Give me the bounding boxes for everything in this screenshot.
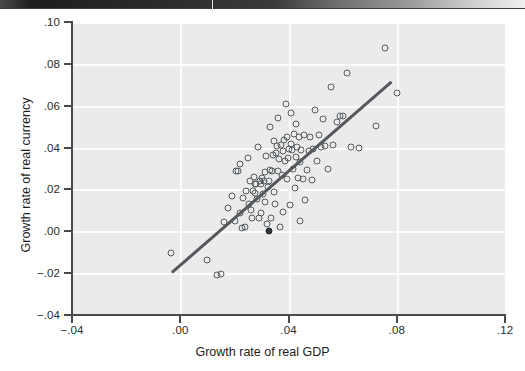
data-point	[393, 89, 400, 96]
data-point	[287, 109, 294, 116]
y-axis-tick	[64, 230, 71, 232]
data-point	[324, 165, 331, 172]
data-point	[254, 196, 261, 203]
data-point	[299, 176, 306, 183]
data-point	[330, 142, 337, 149]
data-point	[315, 131, 322, 138]
scatter-plot-figure: −.04−.02.00.02.04.06.08.10 Growth rate o…	[0, 0, 525, 371]
data-point	[260, 190, 267, 197]
data-point	[286, 202, 293, 209]
x-axis-tick	[179, 316, 181, 323]
y-axis-tick	[64, 63, 71, 65]
data-point	[291, 185, 298, 192]
x-axis-tick	[71, 316, 73, 323]
data-point	[279, 208, 286, 215]
data-point	[267, 123, 274, 130]
y-axis-tick-label: .10	[14, 16, 60, 28]
data-point	[293, 120, 300, 127]
data-point	[322, 142, 329, 149]
gridline-vertical	[180, 22, 182, 315]
data-point	[265, 177, 272, 184]
data-point	[340, 112, 347, 119]
data-point	[221, 218, 228, 225]
x-axis-title: Growth rate of real GDP	[0, 345, 525, 359]
data-point	[272, 200, 279, 207]
data-point	[296, 218, 303, 225]
y-axis-tick	[64, 147, 71, 149]
data-point	[255, 143, 262, 150]
y-axis-tick-label: −.04	[14, 309, 60, 321]
data-point	[237, 210, 244, 217]
data-point	[285, 154, 292, 161]
data-point	[275, 115, 282, 122]
data-point	[310, 145, 317, 152]
data-point	[224, 205, 231, 212]
data-point-highlighted	[266, 227, 273, 234]
y-axis-tick-labels: −.04−.02.00.02.04.06.08.10	[8, 0, 60, 371]
figure-root: −.04−.02.00.02.04.06.08.10 Growth rate o…	[0, 0, 525, 371]
y-axis-line	[71, 21, 73, 316]
data-point	[277, 224, 284, 231]
gridline-vertical	[505, 22, 507, 315]
data-point	[312, 107, 319, 114]
data-point	[270, 189, 277, 196]
data-point	[283, 175, 290, 182]
data-point	[167, 250, 174, 257]
data-point	[231, 218, 238, 225]
data-point	[261, 198, 268, 205]
data-point	[382, 45, 389, 52]
data-point	[348, 143, 355, 150]
y-axis-title: Growth rate of real currency	[19, 45, 33, 305]
x-axis-tick	[504, 316, 506, 323]
x-axis-tick-label: −.04	[42, 324, 102, 336]
y-axis-tick	[64, 188, 71, 190]
y-axis-tick	[64, 272, 71, 274]
data-point	[236, 161, 243, 168]
x-axis-tick	[288, 316, 290, 323]
data-point	[244, 155, 251, 162]
data-point	[257, 209, 264, 216]
data-point	[282, 101, 289, 108]
x-axis-tick-label: .08	[367, 324, 427, 336]
data-point	[268, 215, 275, 222]
x-axis-tick-label: .12	[475, 324, 525, 336]
data-point	[203, 256, 210, 263]
data-point	[298, 146, 305, 153]
data-point	[372, 123, 379, 130]
data-point	[307, 133, 314, 140]
data-point	[297, 159, 304, 166]
data-point	[235, 168, 242, 175]
y-axis-tick	[64, 314, 71, 316]
data-point	[248, 207, 255, 214]
y-axis-tick	[64, 105, 71, 107]
data-point	[228, 193, 235, 200]
data-point	[290, 165, 297, 172]
data-point	[217, 270, 224, 277]
data-point	[313, 158, 320, 165]
data-point	[320, 116, 327, 123]
x-axis-tick	[396, 316, 398, 323]
x-axis-tick-label: .04	[259, 324, 319, 336]
data-point	[302, 197, 309, 204]
x-axis-tick-label: .00	[150, 324, 210, 336]
data-point	[241, 224, 248, 231]
y-axis-tick	[64, 21, 71, 23]
data-point	[303, 166, 310, 173]
data-point	[355, 144, 362, 151]
data-point	[343, 69, 350, 76]
data-point	[327, 83, 334, 90]
gridline-vertical	[397, 22, 399, 315]
plot-area	[72, 22, 505, 315]
data-point	[308, 176, 315, 183]
